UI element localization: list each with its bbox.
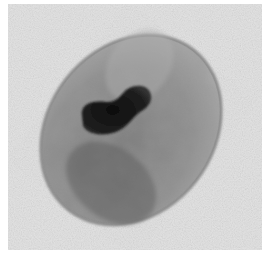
cell-illustration [8, 4, 262, 250]
micrograph-field [8, 4, 262, 250]
